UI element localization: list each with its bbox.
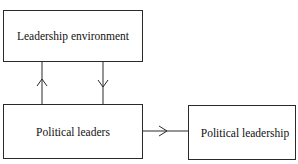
edges-layer [0, 0, 298, 164]
edge-environment-to-leaders [98, 62, 108, 104]
edge-leaders-to-environment [37, 62, 47, 104]
edge-leaders-to-leadership [143, 126, 188, 136]
